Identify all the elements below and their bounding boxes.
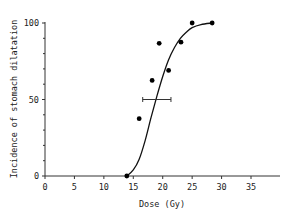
x-tick-label: 5 xyxy=(72,182,77,192)
y-tick-label: 100 xyxy=(24,18,39,28)
x-tick-label: 35 xyxy=(246,182,256,192)
data-point xyxy=(166,68,171,73)
y-tick-label: 0 xyxy=(34,171,39,181)
y-tick-label: 50 xyxy=(29,95,39,105)
data-point xyxy=(150,78,155,83)
x-tick-label: 0 xyxy=(42,182,47,192)
data-point xyxy=(157,41,162,46)
dose-response-chart: 05101520253035 050100 Dose (Gy) Incidenc… xyxy=(0,0,283,217)
data-point xyxy=(210,21,215,26)
y-axis-title: Incidence of stomach dilatation xyxy=(9,20,19,179)
data-point xyxy=(137,116,142,121)
x-tick-label: 20 xyxy=(158,182,168,192)
x-ticks: 05101520253035 xyxy=(42,176,256,192)
x-tick-label: 10 xyxy=(99,182,109,192)
x-tick-label: 25 xyxy=(187,182,197,192)
data-point xyxy=(179,40,184,45)
data-point xyxy=(124,174,129,179)
x-tick-label: 15 xyxy=(128,182,138,192)
x-axis-title: Dose (Gy) xyxy=(139,199,185,209)
data-point xyxy=(190,21,195,26)
x-tick-label: 30 xyxy=(216,182,226,192)
y-ticks: 050100 xyxy=(24,18,45,181)
